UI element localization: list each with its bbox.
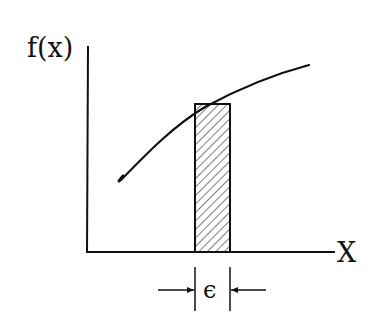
hatched-strip bbox=[195, 104, 230, 252]
epsilon-width-marker: ϵ bbox=[158, 267, 266, 311]
y-axis bbox=[87, 46, 88, 253]
epsilon-label: ϵ bbox=[203, 276, 216, 304]
y-axis-label: f(x) bbox=[27, 32, 73, 63]
x-axis-label: X bbox=[337, 237, 357, 268]
curve-start-mark bbox=[119, 176, 123, 181]
integral-strip-diagram: f(x) X ϵ bbox=[0, 0, 381, 319]
